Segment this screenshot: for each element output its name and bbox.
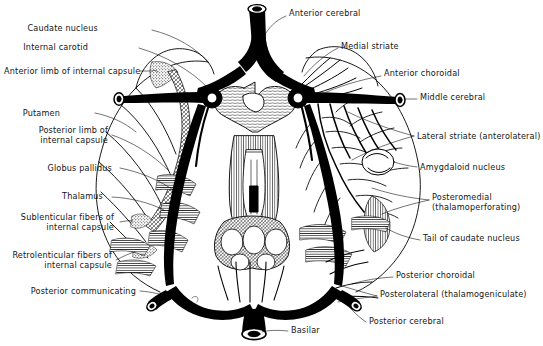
label-putamen: Putamen [0,108,60,118]
right-internal-carotid [288,88,308,108]
label-basilar: Basilar [291,325,320,335]
left-middle-cerebral-artery [122,92,204,103]
left-middle-cerebral-cut-end [114,93,124,105]
label-globus-pallidus: Globus pallidus [0,163,112,173]
label-sublenticular-fibers: Sublenticular fibers of internal capsule [0,212,114,232]
right-middle-cerebral-artery [306,92,398,104]
label-posterior-communicating: Posterior communicating [0,286,136,296]
left-posterior-communicating-cut-end [145,290,172,313]
label-anterior-limb-internal-capsule: Anterior limb of internal capsule [4,66,140,76]
label-tail-of-caudate-nucleus: Tail of caudate nucleus [423,233,520,243]
label-amygdaloid-nucleus: Amygdaloid nucleus [420,162,505,172]
left-internal-carotid [202,88,222,108]
anterior-cerebral-artery-cut-end [248,5,266,14]
label-middle-cerebral: Middle cerebral [420,92,485,102]
posterior-choroidal-branches [336,282,378,298]
label-medial-striate: Medial striate [341,41,399,51]
label-posterior-limb-internal-capsule: Posterior limb of internal capsule [0,125,108,145]
label-internal-carotid: Internal carotid [0,42,88,52]
optic-chiasm [214,82,295,132]
mammillary-bodies [214,216,289,270]
right-middle-cerebral-cut-end [395,94,405,107]
label-retrolenticular-fibers: Retrolenticular fibers of internal capsu… [0,250,112,270]
label-posterior-cerebral: Posterior cerebral [369,316,444,326]
label-anterior-cerebral: Anterior cerebral [289,8,361,18]
label-lateral-striate: Lateral striate (anterolateral) [417,131,541,141]
label-posteromedial: Posteromedial (thalamoperforating) [432,192,520,212]
label-thalamus: Thalamus [0,191,103,201]
label-posterior-choroidal: Posterior choroidal [396,270,475,280]
amygdaloid-nucleus [362,149,394,175]
right-posterior-cerebral-cut-end [336,290,363,313]
basilar-artery-cut-end [242,328,266,339]
label-posterolateral: Posterolateral (thalamogeniculate) [380,289,527,299]
anatomical-figure: Caudate nucleus Internal carotid Anterio… [0,0,543,346]
label-anterior-choroidal: Anterior choroidal [384,68,460,78]
label-caudate-nucleus: Caudate nucleus [0,23,98,33]
